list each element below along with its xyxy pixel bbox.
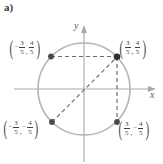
point-bottom-left xyxy=(49,119,55,125)
coord-y-term: − 4 5 xyxy=(23,120,34,136)
coord-label-bottom-left: ( − 3 5 , − 4 5 ) xyxy=(2,120,40,136)
unit-circle-svg xyxy=(0,0,163,164)
fraction: 4 5 xyxy=(134,40,140,56)
denominator: 5 xyxy=(13,128,19,135)
coord-x-term: − 3 5 xyxy=(9,120,20,136)
coord-label-top-right: ( 3 5 , 4 5 ) xyxy=(118,40,147,56)
denominator: 5 xyxy=(138,129,144,136)
denominator: 5 xyxy=(124,129,130,136)
numerator: 4 xyxy=(29,40,35,47)
denominator: 5 xyxy=(125,48,131,55)
denominator: 5 xyxy=(27,128,33,135)
coord-label-bottom-right: ( 3 5 , − 4 5 ) xyxy=(117,121,151,137)
unit-circle-figure: a) y x ( − 3 xyxy=(0,0,163,164)
coord-label-top-left: ( − 3 5 , 4 5 ) xyxy=(8,40,42,56)
numerator: 3 xyxy=(19,40,25,47)
denominator: 5 xyxy=(29,48,35,55)
coord-y-term: 4 5 xyxy=(134,40,140,56)
fraction: 4 5 xyxy=(138,121,144,137)
fraction: 4 5 xyxy=(29,40,35,56)
x-axis xyxy=(14,86,156,92)
numerator: 3 xyxy=(125,40,131,47)
numerator: 4 xyxy=(135,40,141,47)
numerator: 3 xyxy=(13,120,19,127)
coord-y-term: − 4 5 xyxy=(133,121,144,137)
coord-y-term: 4 5 xyxy=(29,40,35,56)
y-axis xyxy=(81,25,87,162)
denominator: 5 xyxy=(135,48,141,55)
coord-x-term: − 3 5 xyxy=(15,40,26,56)
x-axis-label: x xyxy=(150,89,154,100)
y-axis-label: y xyxy=(74,20,78,31)
numerator: 3 xyxy=(124,121,130,128)
numerator: 4 xyxy=(27,120,33,127)
denominator: 5 xyxy=(19,48,25,55)
point-top-left xyxy=(48,54,54,60)
numerator: 4 xyxy=(138,121,144,128)
fraction: 4 5 xyxy=(27,120,33,136)
